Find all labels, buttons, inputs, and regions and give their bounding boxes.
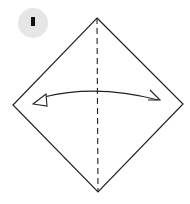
step-number-glyph [31, 17, 35, 26]
step-badge [18, 8, 48, 38]
origami-diagram [0, 0, 190, 204]
